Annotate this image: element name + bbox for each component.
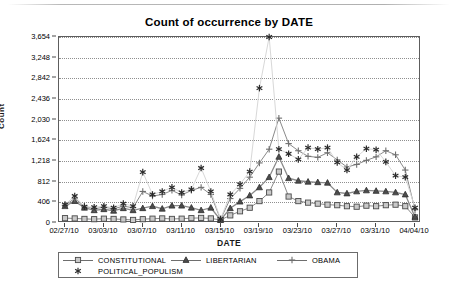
x-axis-tick-label: 03/15/10 — [205, 226, 234, 235]
x-axis-title: DATE — [0, 238, 458, 248]
series-layer — [59, 37, 421, 223]
legend-entry-obama[interactable]: OBAMA — [277, 255, 340, 265]
x-axis-tick-mark — [297, 223, 298, 227]
legend-label: POLITICAL_POPULISM — [98, 267, 183, 276]
x-axis-tick-mark — [142, 223, 143, 227]
legend-label: CONSTITUTIONAL — [98, 256, 166, 265]
y-axis-tick-mark — [52, 160, 56, 161]
y-axis-tick-mark — [52, 118, 56, 119]
series-constitutional — [62, 169, 417, 223]
x-axis-tick-label: 03/03/10 — [88, 226, 117, 235]
y-axis-tick-mark — [52, 98, 56, 99]
x-axis-tick-mark — [103, 223, 104, 227]
x-axis-tick-label: 03/11/10 — [166, 226, 195, 235]
x-axis-tick-label: 03/19/10 — [244, 226, 273, 235]
y-axis-tick-label: 2,842 — [31, 73, 50, 82]
x-axis-tick-mark — [220, 223, 221, 227]
x-axis-tick-mark — [375, 223, 376, 227]
x-axis-tick-mark — [258, 223, 259, 227]
x-axis-tick-mark — [336, 223, 337, 227]
legend-marker-plus-icon — [277, 255, 307, 265]
x-axis-tick-mark — [181, 223, 182, 227]
y-axis-tick-mark — [52, 201, 56, 202]
y-axis-tick-mark — [52, 36, 56, 37]
y-axis-tick-label: 1,218 — [31, 156, 50, 165]
x-axis-tick-label: 04/04/10 — [399, 226, 428, 235]
y-axis-tick-label: 2,436 — [31, 94, 50, 103]
legend-marker-asterisk-icon — [63, 266, 93, 276]
legend-marker-square-icon — [63, 255, 93, 265]
x-axis-tick-mark — [414, 223, 415, 227]
y-axis-tick-mark — [52, 139, 56, 140]
y-axis-tick-label: 3,654 — [31, 32, 50, 41]
x-axis-tick-label: 03/07/10 — [127, 226, 156, 235]
x-axis-tick-label: 03/23/10 — [283, 226, 312, 235]
y-axis-tick-mark — [52, 56, 56, 57]
legend-label: OBAMA — [312, 256, 340, 265]
legend-entry-constitutional[interactable]: CONSTITUTIONAL — [63, 255, 166, 265]
x-axis-tick-label: 03/31/10 — [361, 226, 390, 235]
y-axis-tick-label: 406 — [37, 197, 50, 206]
y-axis-tick-mark — [52, 222, 56, 223]
y-axis-tick-label: 3,248 — [31, 52, 50, 61]
legend-marker-triangle-icon — [171, 255, 201, 265]
series-political_populism — [62, 34, 418, 223]
x-axis-tick-mark — [64, 223, 65, 227]
chart-legend: CONSTITUTIONALLIBERTARIANOBAMAPOLITICAL_… — [58, 252, 358, 278]
x-axis-tick-label: 03/27/10 — [322, 226, 351, 235]
legend-label: LIBERTARIAN — [206, 256, 257, 265]
y-axis-tick-label: 812 — [37, 176, 50, 185]
y-axis-tick-label: 1,624 — [31, 135, 50, 144]
legend-entry-political_populism[interactable]: POLITICAL_POPULISM — [63, 266, 183, 276]
header-divider — [8, 4, 450, 5]
y-axis-tick-label: 2,030 — [31, 114, 50, 123]
y-axis-tick-mark — [52, 180, 56, 181]
chart-title: Count of occurrence by DATE — [0, 16, 458, 28]
x-axis-tick-label: 02/27/10 — [49, 226, 78, 235]
y-axis-tick-mark — [52, 77, 56, 78]
plot-area — [58, 36, 420, 222]
y-axis-labels: 04068121,2181,6242,0302,4362,8423,2483,6… — [0, 36, 56, 222]
legend-entry-libertarian[interactable]: LIBERTARIAN — [171, 255, 257, 265]
